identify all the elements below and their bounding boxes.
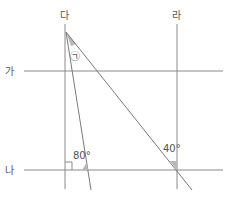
label-ga: 가 [5,66,14,77]
label-angle-unknown: ㉠ [70,51,80,62]
angle-40-shade [170,161,177,170]
geometry-diagram: 다 라 가 나 ㉠ 80° 40° [0,0,234,202]
label-angle-40: 40° [163,143,181,154]
right-angle-marker [65,162,72,170]
label-na: 나 [5,165,14,176]
label-ra: 라 [172,10,181,21]
label-angle-80: 80° [73,150,91,161]
diagram-svg: 다 라 가 나 ㉠ 80° 40° [0,0,234,202]
angle-80-shade [82,162,88,170]
label-da: 다 [60,10,69,21]
